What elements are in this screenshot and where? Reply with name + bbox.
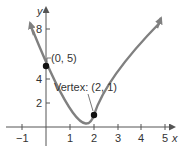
parabola-chart: −1 1 2 3 4 5 x 2 4 8 y (0, 5) Vertex: (2… <box>0 0 181 148</box>
vertex-label: Vertex: (2, 1) <box>54 81 117 93</box>
x-axis-label: x <box>171 132 178 144</box>
vertex-point <box>91 112 97 118</box>
intercept-label: (0, 5) <box>51 52 77 64</box>
x-tick-label: 3 <box>115 132 121 144</box>
x-tick-label: 4 <box>138 132 144 144</box>
left-arrow-icon <box>30 23 34 35</box>
parabola-curve <box>33 23 160 124</box>
y-axis-label: y <box>36 5 44 17</box>
vertex-pointer <box>88 94 93 111</box>
y-tick-label: 4 <box>36 73 42 85</box>
x-tick-label: 5 <box>162 132 168 144</box>
x-tick-label: −1 <box>16 132 29 144</box>
x-tick-label: 2 <box>91 132 97 144</box>
y-tick-label: 2 <box>36 97 42 109</box>
y-tick-label: 8 <box>36 23 42 35</box>
y-intercept-point <box>43 63 49 69</box>
x-tick-label: 1 <box>67 132 73 144</box>
